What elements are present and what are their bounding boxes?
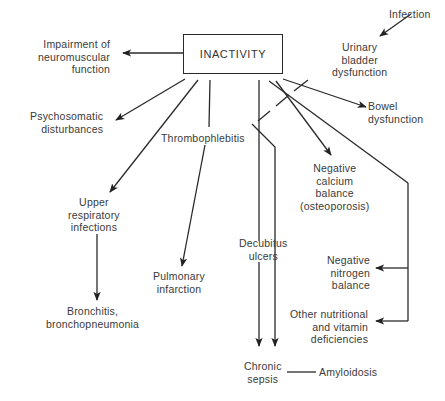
diagram-canvas: INACTIVITY Impairment of neuromuscular f… — [0, 0, 445, 401]
nitrogen-node: Negative nitrogen balance — [327, 254, 370, 292]
nutritional-node: Other nutritional and vitamin deficienci… — [290, 308, 368, 346]
bronchitis-node: Bronchitis, bronchopneumonia — [46, 305, 139, 330]
inactivity-label: INACTIVITY — [200, 48, 267, 60]
urinary-node: Urinary bladder dysfunction — [332, 41, 387, 79]
infection-node: Infection — [389, 8, 431, 21]
pulmonary-node: Pulmonary infarction — [153, 270, 205, 295]
chronic-sepsis-node: Chronic sepsis — [244, 360, 282, 385]
psychosomatic-node: Psychosomatic disturbances — [30, 110, 103, 135]
upper-respiratory-node: Upper respiratory infections — [68, 196, 120, 234]
decubitus-node: Decubitus ulcers — [239, 237, 288, 262]
calcium-node: Negative calcium balance (osteoporosis) — [300, 162, 369, 212]
inactivity-box: INACTIVITY — [183, 34, 283, 74]
thrombophlebitis-node: Thrombophlebitis — [161, 132, 245, 145]
bowel-node: Bowel dysfunction — [368, 100, 423, 125]
amyloidosis-node: Amyloidosis — [319, 366, 377, 379]
impairment-node: Impairment of neuromuscular function — [38, 38, 110, 76]
